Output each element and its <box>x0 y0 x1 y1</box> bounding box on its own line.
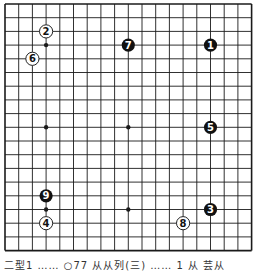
move-number: 2 <box>43 26 50 37</box>
move-number: 5 <box>207 122 214 133</box>
go-board: 123456789 <box>0 0 254 256</box>
move-number: 4 <box>43 218 50 229</box>
star-point <box>44 207 48 211</box>
black-stone-9: 9 <box>40 189 53 202</box>
white-stone-8: 8 <box>177 217 190 230</box>
star-point <box>126 125 130 129</box>
black-stone-1: 1 <box>204 39 217 52</box>
move-number: 7 <box>125 40 132 51</box>
star-point <box>44 43 48 47</box>
black-stone-7: 7 <box>122 39 135 52</box>
move-number: 6 <box>29 53 36 64</box>
move-number: 9 <box>43 190 50 201</box>
move-number: 8 <box>180 218 187 229</box>
white-stone-4: 4 <box>40 217 53 230</box>
white-stone-2: 2 <box>40 25 53 38</box>
black-stone-3: 3 <box>204 203 217 216</box>
move-number: 3 <box>207 204 214 215</box>
white-stone-6: 6 <box>26 52 39 65</box>
star-point <box>126 207 130 211</box>
star-point <box>44 125 48 129</box>
move-number: 1 <box>207 40 214 51</box>
black-stone-5: 5 <box>204 121 217 134</box>
diagram-caption: 二型1 …… ○77 从从列(三) …… 1 从 芸从 <box>4 257 254 271</box>
